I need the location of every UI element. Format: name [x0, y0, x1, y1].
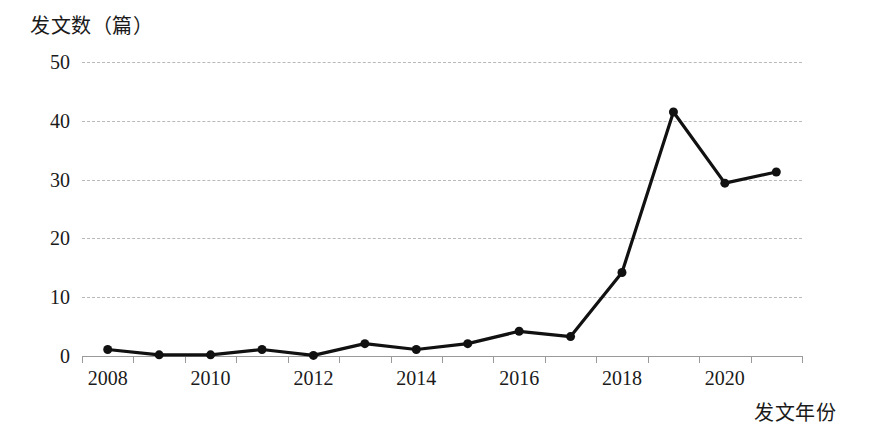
x-axis-tick — [648, 356, 649, 363]
y-axis-tick-labels: 01020304050 — [22, 62, 70, 356]
x-axis-title: 发文年份 — [754, 400, 836, 426]
line-chart: 发文数（篇） 01020304050 200820102012201420162… — [0, 0, 878, 439]
x-axis-tick — [391, 356, 392, 363]
y-axis-tick-label: 0 — [26, 346, 70, 366]
y-axis-tick-label: 40 — [26, 111, 70, 131]
x-axis-tick — [82, 356, 83, 363]
x-axis-tick — [185, 356, 186, 363]
y-axis-title: 发文数（篇） — [30, 13, 153, 39]
y-axis-tick-label: 10 — [26, 287, 70, 307]
gridline — [82, 62, 802, 63]
x-axis-tick-label: 2012 — [278, 366, 348, 390]
y-axis-tick-label: 30 — [26, 170, 70, 190]
x-axis-tick — [133, 356, 134, 363]
x-axis-tick-label: 2018 — [587, 366, 657, 390]
x-axis-tick — [596, 356, 597, 363]
x-axis-tick — [699, 356, 700, 363]
gridline — [82, 121, 802, 122]
x-axis-tick — [751, 356, 752, 363]
x-axis-tick — [545, 356, 546, 363]
x-axis-tick-label: 2020 — [690, 366, 760, 390]
x-axis-tick — [442, 356, 443, 363]
plot-area — [82, 62, 802, 356]
x-axis-tick — [493, 356, 494, 363]
x-axis-tick-label: 2010 — [176, 366, 246, 390]
y-axis-tick-label: 20 — [26, 228, 70, 248]
x-axis-tick — [339, 356, 340, 363]
x-axis-tick-label: 2008 — [73, 366, 143, 390]
y-axis-tick-label: 50 — [26, 52, 70, 72]
x-axis-tick — [802, 356, 803, 363]
x-axis-tick-label: 2016 — [484, 366, 554, 390]
gridline — [82, 297, 802, 298]
gridline — [82, 238, 802, 239]
x-axis-tick-label: 2014 — [381, 366, 451, 390]
x-axis-tick — [288, 356, 289, 363]
x-axis-tick — [236, 356, 237, 363]
gridline — [82, 180, 802, 181]
